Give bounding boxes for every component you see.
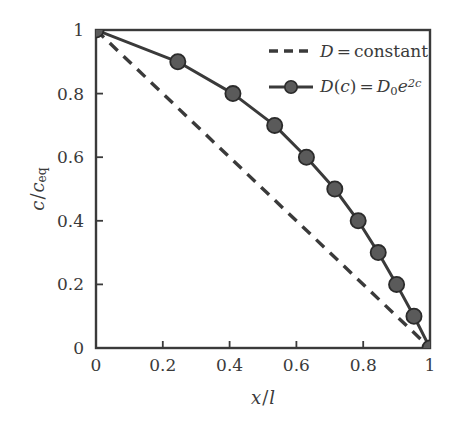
legend-label-constant: D=constant [320, 41, 428, 61]
data-point-marker [88, 22, 103, 37]
data-point-marker [351, 213, 366, 228]
x-tick-label-3: 0.6 [283, 355, 310, 375]
data-point-marker [225, 86, 240, 101]
y-axis-title-numerator: c [27, 201, 48, 211]
y-tick-label-0: 0 [52, 338, 84, 358]
x-tick-label-5: 1 [425, 355, 436, 375]
concentration-profile-figure: 0 0.2 0.4 0.6 0.8 1 0 0.2 0.4 0.6 0.8 1 … [0, 0, 461, 427]
data-point-marker [389, 277, 404, 292]
legend-constant-equals: = [334, 41, 354, 61]
legend-exp-superscript: 2c [408, 76, 422, 90]
x-tick-label-4: 0.8 [350, 355, 377, 375]
legend-entry-exponential[interactable]: D(c)=D0e2c [268, 69, 426, 105]
x-axis-title: x/l [251, 387, 275, 408]
x-tick-label-1: 0.2 [149, 355, 176, 375]
legend-exp-equals: = [356, 76, 376, 96]
data-point-marker [371, 245, 386, 260]
legend-label-exponential: D(c)=D0e2c [320, 76, 422, 98]
legend-exp-base: D [377, 76, 391, 96]
data-point-marker [267, 118, 282, 133]
y-axis-title: c/ceq [27, 167, 50, 210]
x-axis-title-numerator: x [251, 387, 261, 408]
x-axis-title-denominator: l [269, 387, 275, 408]
legend-exp-base-subscript: 0 [390, 84, 397, 98]
legend-constant-symbol: D [320, 41, 334, 61]
x-tick-label-0: 0 [91, 355, 102, 375]
y-tick-label-2: 0.4 [52, 211, 84, 231]
y-tick-label-4: 0.8 [52, 84, 84, 104]
data-point-marker [299, 150, 314, 165]
y-axis-title-slash: / [27, 193, 48, 201]
legend: D=constant D(c)=D0e2c [268, 33, 426, 105]
legend-swatch-solid-marker [268, 78, 314, 96]
x-tick-label-2: 0.4 [216, 355, 243, 375]
legend-exp-e: e [398, 76, 408, 96]
y-tick-label-5: 1 [52, 20, 84, 40]
y-tick-label-3: 0.6 [52, 147, 84, 167]
data-point-marker [327, 181, 342, 196]
legend-exp-symbol: D [320, 76, 334, 96]
y-tick-label-1: 0.2 [52, 274, 84, 294]
legend-entry-constant[interactable]: D=constant [268, 33, 426, 69]
legend-constant-value: constant [354, 41, 428, 61]
legend-exp-arg: c [340, 76, 350, 96]
y-axis-title-denominator: c [27, 182, 48, 192]
y-axis-title-subscript: eq [35, 167, 49, 182]
legend-swatch-dashed [268, 42, 314, 60]
data-point-marker [406, 309, 421, 324]
data-point-marker [422, 340, 437, 355]
data-point-marker [170, 54, 185, 69]
